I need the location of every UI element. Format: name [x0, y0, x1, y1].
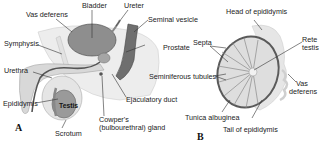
- label-cowpers-line2: (bulbourethral) gland: [99, 123, 165, 132]
- label-rete-line2: testis: [302, 43, 319, 52]
- cowpers-gland-shape: [99, 72, 103, 76]
- label-vas-line2: deferens: [289, 87, 317, 96]
- label-prostate: Prostate: [163, 43, 190, 52]
- panel-label-a: A: [15, 122, 23, 133]
- figure-a: Vas deferens Bladder Ureter Seminal vesi…: [3, 1, 198, 138]
- leader-ureter: [116, 10, 128, 26]
- label-testis: Testis: [59, 102, 78, 109]
- leader-septa-1: [210, 46, 226, 48]
- label-seminal-vesicle: Seminal vesicle: [148, 15, 198, 24]
- figure-b: Head of epididymis Septa Rete testis Sem…: [149, 7, 319, 142]
- label-urethra: Urethra: [4, 66, 28, 75]
- label-seminiferous-tubules: Seminiferous tubules: [149, 72, 217, 81]
- label-ureter: Ureter: [124, 1, 145, 10]
- label-tunica-albuginea: Tunica albuginea: [185, 113, 239, 122]
- leader-scrotum: [62, 120, 66, 128]
- panel-label-b: B: [197, 131, 204, 142]
- label-septa: Septa: [193, 38, 212, 47]
- label-tail-epididymis: Tail of epididymis: [223, 125, 278, 134]
- label-scrotum: Scrotum: [55, 129, 82, 138]
- label-bladder: Bladder: [82, 1, 107, 10]
- leader-vas-deferens-b: [288, 74, 296, 82]
- label-vas-deferens: Vas deferens: [26, 10, 68, 19]
- label-ejaculatory-duct: Ejaculatory duct: [126, 95, 177, 104]
- label-symphysis: Symphysis: [4, 39, 39, 48]
- leader-tunica: [222, 100, 230, 112]
- prostate-shape: [98, 53, 110, 63]
- anatomy-diagram: Vas deferens Bladder Ureter Seminal vesi…: [0, 0, 319, 143]
- label-head-epididymis: Head of epididymis: [226, 7, 288, 16]
- label-epididymis: Epididymis: [3, 99, 38, 108]
